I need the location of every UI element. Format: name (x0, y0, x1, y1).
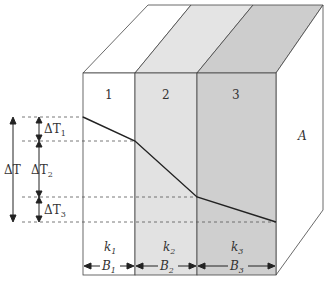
delta-t2-label: ΔT2 (31, 163, 53, 179)
layer-3-number: 3 (232, 88, 240, 102)
delta-t1-label: ΔT1 (44, 122, 66, 138)
delta-t3-label: ΔT3 (44, 203, 66, 219)
composite-wall-diagram: ΔT ΔT1 ΔT2 ΔT3 1 2 3 A k1 k2 k3 B1 B2 B3 (0, 0, 330, 284)
area-label: A (297, 129, 307, 143)
total-delta-t-label: ΔT (4, 163, 21, 177)
layer-2-number: 2 (162, 88, 170, 102)
layer-1-number: 1 (105, 88, 113, 102)
